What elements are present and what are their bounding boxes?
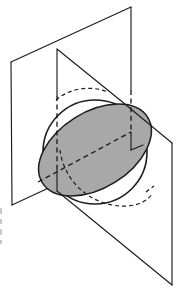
figure-canvas xyxy=(0,0,184,292)
oblique-plane-top-edge-left xyxy=(57,49,120,100)
oblique-plane-bottom-edge xyxy=(57,191,172,285)
sphere-plane-intersection-figure xyxy=(0,0,184,292)
scan-artifact xyxy=(0,240,2,244)
scan-artifact xyxy=(0,219,2,224)
elliptical-cross-section xyxy=(22,85,167,215)
front-plane-top-edge xyxy=(11,7,131,62)
front-plane-left-edge xyxy=(11,62,12,205)
hidden-ellipse-back-arc-top xyxy=(56,88,108,100)
scan-artifact xyxy=(0,229,2,235)
oblique-plane-back xyxy=(57,49,120,100)
scan-artifact xyxy=(0,208,2,214)
hidden-plane-intersection-tick xyxy=(146,186,154,192)
